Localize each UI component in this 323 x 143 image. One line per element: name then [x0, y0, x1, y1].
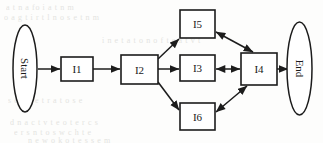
diagram-canvas: a t n a fo i a t n mo a g t i r t l n o …	[0, 0, 323, 143]
edge-i5-to-i4	[216, 32, 253, 52]
nodes-group: StartI1I2I5I3I6I4End	[13, 10, 312, 130]
node-i2[interactable]: I2	[121, 55, 158, 84]
node-label-i3: I3	[193, 62, 203, 74]
node-i4[interactable]: I4	[241, 53, 277, 85]
node-start[interactable]: Start	[13, 25, 37, 112]
node-label-i1: I1	[72, 63, 81, 75]
node-label-i6: I6	[193, 111, 203, 123]
edge-i2-to-i5	[158, 39, 179, 59]
edge-i2-to-i6	[158, 82, 179, 110]
node-label-i5: I5	[193, 18, 203, 30]
node-end[interactable]: End	[287, 22, 312, 115]
node-i3[interactable]: I3	[180, 55, 215, 81]
node-i1[interactable]: I1	[61, 57, 93, 81]
node-label-i4: I4	[254, 63, 264, 75]
node-i6[interactable]: I6	[180, 103, 215, 130]
flow-diagram: StartI1I2I5I3I6I4End	[0, 0, 323, 143]
node-label-end: End	[294, 60, 306, 78]
node-label-start: Start	[19, 58, 31, 79]
node-label-i2: I2	[135, 64, 144, 76]
node-i5[interactable]: I5	[180, 10, 215, 38]
edge-i6-to-i4	[216, 86, 247, 112]
